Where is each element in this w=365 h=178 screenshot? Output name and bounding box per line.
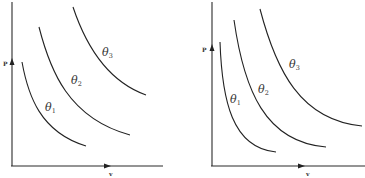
left-label-theta2: θ2 xyxy=(71,74,82,88)
left-y-axis-label: P xyxy=(3,60,8,67)
right-label-theta3: θ3 xyxy=(289,58,300,72)
left-curve-theta2 xyxy=(39,27,130,135)
right-panel: P v θ1 θ2 θ3 xyxy=(202,2,365,177)
left-label-theta1: θ1 xyxy=(45,101,56,115)
right-x-arrow-icon xyxy=(298,164,305,169)
left-panel: P v θ1 θ2 θ3 xyxy=(3,2,163,177)
isotherm-figure: P v θ1 θ2 θ3 P v θ1 θ2 θ3 xyxy=(0,0,365,178)
left-label-theta3: θ3 xyxy=(102,46,113,60)
right-label-theta2: θ2 xyxy=(258,83,269,97)
right-curve-theta2 xyxy=(234,20,326,147)
right-y-axis-label: P xyxy=(202,46,207,53)
right-curve-theta3 xyxy=(260,9,362,126)
right-x-axis-label: v xyxy=(305,170,310,177)
left-x-axis-label: v xyxy=(108,170,113,177)
left-y-arrow-icon xyxy=(10,58,15,65)
right-curve-theta1 xyxy=(220,42,276,152)
left-curve-theta3 xyxy=(73,7,146,95)
left-x-arrow-icon xyxy=(104,164,111,169)
right-label-theta1: θ1 xyxy=(230,93,241,107)
right-y-arrow-icon xyxy=(210,44,215,51)
